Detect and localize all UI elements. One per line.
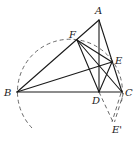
label-B: B <box>3 87 11 98</box>
segment-CE-prime-b <box>115 93 124 122</box>
circle-arc <box>17 39 122 128</box>
segment-BE <box>17 62 112 92</box>
segment-DE <box>99 62 112 92</box>
segment-CE-prime-a <box>112 93 121 122</box>
label-F: F <box>68 29 77 40</box>
segment-FD <box>77 40 99 92</box>
label-A: A <box>94 5 102 16</box>
segment-AB <box>17 20 99 92</box>
segment-DE-prime <box>99 92 113 122</box>
label-E: E <box>114 55 123 66</box>
label-E-prime: E' <box>111 124 122 135</box>
label-D: D <box>91 95 100 106</box>
label-C: C <box>125 87 133 98</box>
geometry-diagram: A B C D E F E' <box>0 0 138 145</box>
